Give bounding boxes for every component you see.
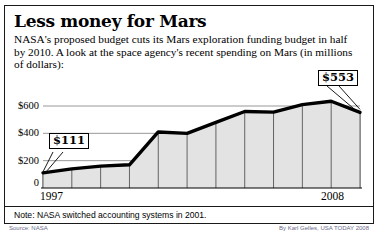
x-tick-label-start: 1997 [40,190,63,202]
first-value-callout: $111 [49,133,89,149]
infographic-frame: Less money for Mars NASA's proposed budg… [4,5,374,211]
y-tick-label-200: $200 [5,155,39,166]
mars-spending-area-chart [5,6,375,212]
note-bar: Note: NASA switched accounting systems i… [4,206,374,224]
area-fill [43,101,360,188]
y-tick-label-600: $600 [5,100,39,111]
chart-note: Note: NASA switched accounting systems i… [14,210,207,220]
y-tick-label-0: 0 [5,177,39,188]
source-credit: Source: NASA [9,225,48,231]
chart-plot-area: $600 $400 $200 0 1997 2008 $111 $553 [5,6,375,212]
byline-credit: By Karl Gelles, USA TODAY 2008 [279,225,369,231]
credits-row: Source: NASA By Karl Gelles, USA TODAY 2… [4,225,374,231]
y-tick-label-400: $400 [5,127,39,138]
x-tick-label-end: 2008 [321,190,344,202]
last-value-callout: $553 [318,70,358,86]
